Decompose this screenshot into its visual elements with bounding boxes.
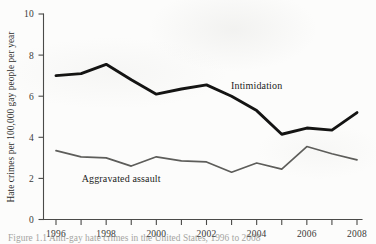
figure-caption-clip: Figure 1.1 Anti-gay hate crimes in the U… — [0, 233, 376, 244]
y-axis-ticks — [39, 14, 44, 220]
y-tick-label: 4 — [29, 133, 34, 143]
line-chart: 0246810 1996199820002002200420062008 Int… — [0, 0, 376, 244]
y-tick-label: 6 — [29, 92, 34, 102]
y-tick-label: 2 — [29, 174, 34, 184]
y-tick-label: 10 — [24, 9, 34, 19]
y-tick-label: 0 — [29, 215, 34, 225]
figure-caption: Figure 1.1 Anti-gay hate crimes in the U… — [8, 233, 368, 243]
series-line-intimidation — [56, 64, 357, 134]
y-axis-tick-labels: 0246810 — [24, 9, 34, 225]
series-label-intimidation: Intimidation — [231, 80, 282, 91]
y-tick-label: 8 — [29, 51, 34, 61]
series-line-aggravated-assault — [56, 147, 357, 173]
y-axis-title: Hate crimes per 100,000 gay people per y… — [6, 31, 16, 203]
figure-container: 0246810 1996199820002002200420062008 Int… — [0, 0, 376, 244]
x-axis-ticks — [56, 220, 357, 226]
series-label-aggravated-assault: Aggravated assault — [82, 173, 161, 184]
